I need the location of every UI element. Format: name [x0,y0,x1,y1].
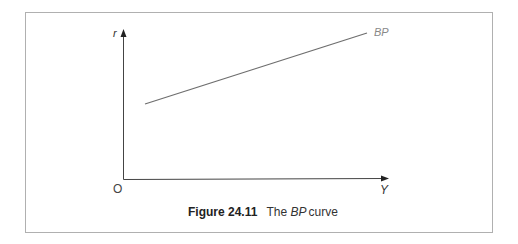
caption-suffix: curve [309,205,338,219]
origin-label: O [113,182,122,196]
x-axis [124,179,384,180]
caption-prefix: The [267,205,288,219]
caption-italic: BP [291,205,307,219]
y-axis-arrow-icon [121,29,127,37]
y-axis-label: r [113,27,118,39]
bp-curve [145,33,367,104]
bp-curve-label: BP [374,26,389,38]
figure-number: Figure 24.11 [188,205,257,219]
x-axis-arrow-icon [381,176,389,182]
x-axis-label: Y [380,183,389,197]
figure-frame [26,13,493,233]
